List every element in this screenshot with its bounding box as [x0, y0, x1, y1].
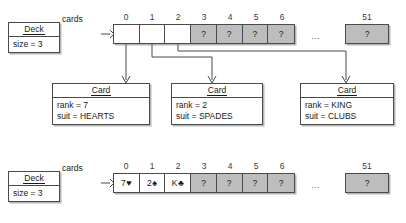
array-index-51-top: 51: [345, 12, 389, 22]
card-suit-field-2: suit = SPADES: [176, 111, 262, 122]
array-cell-0-top[interactable]: [114, 25, 140, 43]
card-array-top: ? ? ? ?: [113, 24, 295, 44]
card-rank-field-3: rank = KING: [305, 100, 393, 111]
array-cell-4-top[interactable]: ?: [217, 25, 243, 43]
array-index-3-bottom: 3: [191, 161, 217, 171]
array-cell-6-top[interactable]: ?: [268, 25, 294, 43]
card-rank-field-2: rank = 2: [176, 100, 262, 111]
card-class-title-1: Card: [53, 84, 149, 98]
array-cell-6-bottom[interactable]: ?: [268, 174, 294, 192]
array-cell-2-bottom[interactable]: K♣: [165, 174, 191, 192]
deck-size-field-bottom: size = 3: [13, 188, 59, 199]
card-object-box-3: Card rank = KING suit = CLUBS: [300, 83, 394, 125]
deck-object-box-top: Deck size = 3: [8, 22, 60, 53]
array-index-0-bottom: 0: [113, 161, 139, 171]
cards-pointer-label-top: cards: [62, 14, 83, 24]
card-suit-field-1: suit = HEARTS: [57, 111, 149, 122]
array-index-2-top: 2: [165, 12, 191, 22]
cards-pointer-label-bottom: cards: [62, 163, 83, 173]
array-index-4-bottom: 4: [217, 161, 243, 171]
diagram-canvas: Deck size = 3 cards 0 1 2 3 4 5 6 51 ? ?…: [0, 0, 406, 223]
array-index-0-top: 0: [113, 12, 139, 22]
deck-fields-top: size = 3: [9, 37, 59, 52]
deck-class-title-top: Deck: [9, 23, 59, 37]
array-index-5-bottom: 5: [243, 161, 269, 171]
deck-class-title-bottom: Deck: [9, 172, 59, 186]
card-fields-1: rank = 7 suit = HEARTS: [53, 98, 149, 124]
array-cell-2-top[interactable]: [165, 25, 191, 43]
array-cell-0-bottom[interactable]: 7♥: [114, 174, 140, 192]
card-rank-field-1: rank = 7: [57, 100, 149, 111]
card-object-box-1: Card rank = 7 suit = HEARTS: [52, 83, 150, 125]
array-index-2-bottom: 2: [165, 161, 191, 171]
array-cell-1-top[interactable]: [140, 25, 166, 43]
array-cell-51-bottom[interactable]: ?: [345, 173, 389, 193]
array-cell-5-top[interactable]: ?: [243, 25, 269, 43]
array-cell-1-bottom[interactable]: 2♠: [140, 174, 166, 192]
deck-object-box-bottom: Deck size = 3: [8, 171, 60, 202]
array-index-51-bottom: 51: [345, 161, 389, 171]
array-cell-51-top[interactable]: ?: [345, 24, 389, 44]
card-array-bottom: 7♥ 2♠ K♣ ? ? ? ?: [113, 173, 295, 193]
array-ellipsis-top: …: [311, 31, 321, 41]
card-class-title-3: Card: [301, 84, 393, 98]
array-index-6-bottom: 6: [269, 161, 295, 171]
spade-suit-icon: ♠: [152, 179, 157, 188]
array-index-1-bottom: 1: [139, 161, 165, 171]
array-cell-4-bottom[interactable]: ?: [217, 174, 243, 192]
card-fields-2: rank = 2 suit = SPADES: [172, 98, 262, 124]
club-suit-icon: ♣: [177, 179, 183, 188]
card-fields-3: rank = KING suit = CLUBS: [301, 98, 393, 124]
array-index-1-top: 1: [139, 12, 165, 22]
array-cell-3-top[interactable]: ?: [191, 25, 217, 43]
array-index-3-top: 3: [191, 12, 217, 22]
array-cell-5-bottom[interactable]: ?: [243, 174, 269, 192]
deck-size-field-top: size = 3: [13, 39, 59, 50]
array-index-5-top: 5: [243, 12, 269, 22]
array-ellipsis-bottom: …: [311, 180, 321, 190]
array-cell-3-bottom[interactable]: ?: [191, 174, 217, 192]
deck-fields-bottom: size = 3: [9, 186, 59, 201]
card-suit-field-3: suit = CLUBS: [305, 111, 393, 122]
card-object-box-2: Card rank = 2 suit = SPADES: [171, 83, 263, 125]
array-index-4-top: 4: [217, 12, 243, 22]
heart-suit-icon: ♥: [126, 179, 132, 188]
array-index-6-top: 6: [269, 12, 295, 22]
card-class-title-2: Card: [172, 84, 262, 98]
